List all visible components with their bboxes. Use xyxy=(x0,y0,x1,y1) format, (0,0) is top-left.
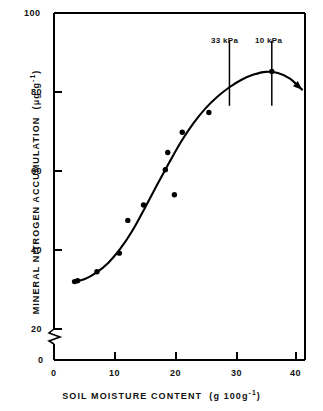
x-tick-label-20: 20 xyxy=(170,368,181,378)
fitted-curve xyxy=(75,72,302,282)
data-point xyxy=(165,150,170,155)
data-point xyxy=(94,269,99,274)
y-axis-title-main: MINERAL NITROGEN ACCUMULATION xyxy=(31,117,41,315)
y-axis-title: MINERAL NITROGEN ACCUMULATION (μg g-1) xyxy=(29,27,41,357)
x-tick-label-10: 10 xyxy=(109,368,120,378)
x-axis-title-units-exponent: -1 xyxy=(249,389,257,396)
data-point xyxy=(125,218,130,223)
data-point xyxy=(269,69,274,74)
reference-lines xyxy=(229,41,271,106)
x-axis-title-units-open: (g 100g xyxy=(209,391,248,401)
chart-plot-area xyxy=(0,0,323,411)
y-axis-break-symbol xyxy=(49,329,60,344)
x-tick-label-0: 0 xyxy=(51,368,57,378)
data-point xyxy=(75,278,80,283)
data-point-markers xyxy=(72,69,275,285)
data-point xyxy=(180,130,185,135)
x-axis-title-units-close: ) xyxy=(257,391,261,401)
x-axis-ticks xyxy=(54,352,296,360)
x-axis-title-main: SOIL MOISTURE CONTENT xyxy=(62,391,202,401)
x-axis-title: SOIL MOISTURE CONTENT (g 100g-1) xyxy=(0,389,323,401)
figure-chart: 100 80 60 40 20 0 0 10 20 30 40 33 kPa 1… xyxy=(0,0,323,411)
data-point xyxy=(141,202,146,207)
x-tick-label-40: 40 xyxy=(290,368,301,378)
y-axis-title-units-exponent: -1 xyxy=(29,74,36,82)
annotation-label-33kpa: 33 kPa xyxy=(211,36,238,45)
y-axis-title-units-open: (μg g xyxy=(31,82,41,110)
axis-frame xyxy=(54,13,305,360)
y-axis-ticks xyxy=(54,13,62,360)
data-point xyxy=(172,192,177,197)
data-point xyxy=(117,250,122,255)
annotation-label-10kpa: 10 kPa xyxy=(255,36,282,45)
y-axis-title-units-close: ) xyxy=(31,70,41,74)
x-tick-label-30: 30 xyxy=(231,368,242,378)
data-point xyxy=(206,110,211,115)
data-point xyxy=(163,167,168,172)
y-tick-label-100: 100 xyxy=(24,8,41,18)
